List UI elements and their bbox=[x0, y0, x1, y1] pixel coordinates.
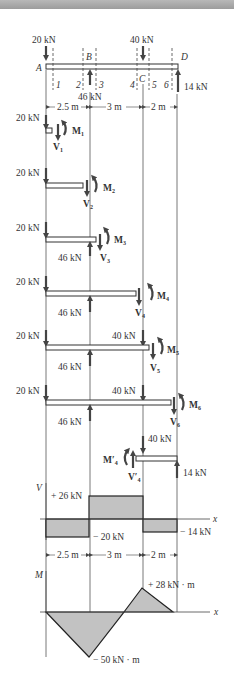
free-body-6: 20 kN 40 kN 46 kN M6 V6 bbox=[16, 385, 201, 428]
beam bbox=[46, 64, 178, 69]
svg-text:20 kN: 20 kN bbox=[16, 168, 40, 178]
free-body-5: 20 kN 40 kN 46 kN M5 V5 bbox=[16, 330, 179, 374]
section-1-label: 1 bbox=[56, 80, 61, 90]
load-a-label: 20 kN bbox=[32, 35, 56, 45]
svg-text:V2: V2 bbox=[83, 199, 93, 210]
shear-max-label: + 26 kN bbox=[51, 491, 82, 501]
load-c-label: 40 kN bbox=[130, 35, 154, 45]
point-b-label: B bbox=[86, 52, 92, 62]
free-body-3: 20 kN 46 kN M3 V3 bbox=[16, 222, 126, 264]
svg-text:46 kN: 46 kN bbox=[58, 308, 82, 318]
svg-text:46 kN: 46 kN bbox=[58, 362, 82, 372]
point-d-label: D bbox=[180, 52, 188, 62]
shear-min-label: − 20 kN bbox=[93, 532, 124, 542]
span-ab-label: 2.5 m bbox=[57, 102, 79, 112]
point-c-label: C bbox=[139, 74, 146, 84]
free-body-2: 20 kN M2 V2 bbox=[16, 168, 115, 210]
svg-text:M: M bbox=[34, 570, 44, 580]
section-2-label: 2 bbox=[76, 80, 81, 90]
moment-arrow bbox=[63, 122, 66, 135]
svg-text:V: V bbox=[36, 483, 43, 493]
svg-text:20 kN: 20 kN bbox=[16, 113, 40, 123]
svg-text:40 kN: 40 kN bbox=[112, 331, 136, 341]
section-5-label: 5 bbox=[152, 80, 157, 90]
moment-min-label: − 50 kN · m bbox=[93, 655, 140, 665]
svg-text:M1: M1 bbox=[72, 126, 84, 137]
svg-text:V3: V3 bbox=[100, 253, 110, 264]
svg-text:V5: V5 bbox=[150, 363, 160, 374]
svg-text:20 kN: 20 kN bbox=[16, 331, 40, 341]
point-a-label: A bbox=[35, 63, 42, 73]
reaction-d-label: 14 kN bbox=[184, 82, 208, 92]
loaded-beam: 20 kN 40 kN A B C D 1 2 3 4 5 6 46 kN 14… bbox=[32, 35, 208, 112]
span-cd-label: 2 m bbox=[151, 102, 166, 112]
svg-text:14 kN: 14 kN bbox=[183, 468, 207, 478]
svg-text:2 m: 2 m bbox=[151, 550, 166, 560]
svg-text:20 kN: 20 kN bbox=[16, 223, 40, 233]
svg-text:20 kN: 20 kN bbox=[16, 386, 40, 396]
svg-text:3 m: 3 m bbox=[107, 550, 122, 560]
svg-text:46 kN: 46 kN bbox=[58, 417, 82, 427]
section-6-label: 6 bbox=[164, 80, 169, 90]
svg-text:M2: M2 bbox=[103, 183, 115, 194]
section-3-label: 3 bbox=[98, 80, 104, 90]
svg-text:x: x bbox=[213, 607, 219, 617]
section-4-label: 4 bbox=[130, 80, 135, 90]
moment-diagram: M x + 28 kN · m − 50 kN · m bbox=[34, 570, 219, 665]
svg-text:x: x bbox=[212, 514, 218, 524]
svg-text:40 kN: 40 kN bbox=[112, 386, 136, 396]
svg-text:V′4: V′4 bbox=[128, 472, 141, 483]
svg-text:40 kN: 40 kN bbox=[148, 434, 172, 444]
svg-text:2.5 m: 2.5 m bbox=[57, 550, 79, 560]
svg-text:M3: M3 bbox=[114, 235, 126, 246]
free-body-1: 20 kN M1 V1 bbox=[16, 113, 84, 153]
shear-diagram: V x + 26 kN − 20 kN − 14 kN 2.5 m 3 m 2 … bbox=[36, 483, 218, 560]
beam-diagram: 20 kN 40 kN A B C D 1 2 3 4 5 6 46 kN 14… bbox=[0, 0, 234, 677]
svg-text:M′4: M′4 bbox=[103, 455, 118, 466]
free-body-4: 20 kN 46 kN M4 V4 bbox=[16, 276, 169, 319]
svg-text:V6: V6 bbox=[170, 417, 180, 428]
svg-text:V1: V1 bbox=[53, 142, 63, 153]
shear-end-label: − 14 kN bbox=[180, 527, 211, 537]
svg-text:20 kN: 20 kN bbox=[16, 277, 40, 287]
span-bc-label: 3 m bbox=[107, 102, 122, 112]
free-body-right: 40 kN M′4 V′4 14 kN bbox=[103, 434, 207, 483]
svg-text:46 kN: 46 kN bbox=[58, 253, 82, 263]
moment-max-label: + 28 kN · m bbox=[148, 580, 195, 590]
svg-text:M4: M4 bbox=[157, 291, 169, 302]
svg-text:M6: M6 bbox=[189, 400, 201, 411]
